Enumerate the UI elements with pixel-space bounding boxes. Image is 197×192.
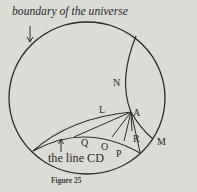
point-label-o: O	[101, 141, 108, 152]
figure-page: boundary of the universe N A L M Q O P R…	[0, 0, 197, 192]
point-label-n: N	[113, 77, 120, 88]
point-label-l: L	[99, 104, 105, 115]
figure-caption: Figure 25	[51, 176, 82, 185]
point-label-p: P	[116, 148, 122, 159]
boundary-label: boundary of the universe	[12, 3, 128, 18]
point-label-r: R	[133, 133, 140, 144]
line-ar-b	[131, 112, 140, 152]
line-cd-label: the line CD	[48, 152, 104, 164]
point-label-m: M	[157, 136, 166, 147]
boundary-arrow-icon	[27, 26, 33, 42]
point-label-q: Q	[81, 137, 89, 148]
figure-25-diagram: boundary of the universe N A L M Q O P R…	[0, 0, 197, 192]
line-cd-arrow-icon	[59, 139, 64, 152]
point-label-a: A	[133, 107, 141, 118]
line-aq	[74, 112, 131, 137]
